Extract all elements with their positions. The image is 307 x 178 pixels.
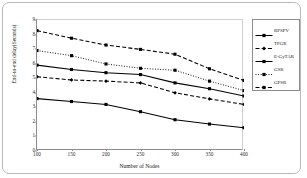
x-axis-tick-label: 300 bbox=[171, 152, 179, 157]
data-point-marker bbox=[37, 29, 39, 32]
y-axis-tick-mark bbox=[35, 63, 37, 64]
data-point-marker bbox=[70, 54, 73, 57]
x-axis-tick-mark bbox=[106, 149, 107, 151]
legend-item-e-gytar[interactable]: E-GyTAR bbox=[255, 50, 297, 63]
legend-label: TPGR bbox=[273, 41, 287, 46]
x-axis-tick-label: 250 bbox=[137, 152, 145, 157]
plot-area: 0123456789100150200250300350400 bbox=[36, 19, 243, 150]
data-point-marker bbox=[208, 123, 211, 126]
data-point-marker bbox=[70, 37, 73, 40]
data-point-marker bbox=[70, 78, 74, 82]
data-point-marker bbox=[208, 67, 211, 70]
data-point-marker bbox=[104, 62, 107, 65]
x-axis-tick-label: 150 bbox=[68, 152, 76, 157]
data-point-marker bbox=[104, 71, 107, 74]
x-axis-tick-label: 400 bbox=[240, 152, 248, 157]
data-point-marker bbox=[37, 97, 39, 100]
legend-swatch-icon bbox=[255, 52, 273, 61]
y-axis-tick-mark bbox=[35, 92, 37, 93]
data-point-marker bbox=[242, 79, 244, 82]
legend-item-rpspv[interactable]: RPSPV bbox=[255, 24, 297, 37]
legend-item-gpsr[interactable]: GPSR bbox=[255, 76, 297, 89]
data-point-marker bbox=[173, 91, 177, 95]
data-point-marker bbox=[173, 118, 176, 121]
data-point-marker bbox=[139, 48, 142, 51]
legend-label: RPSPV bbox=[273, 28, 289, 33]
data-point-marker bbox=[208, 87, 211, 90]
y-axis-tick-mark bbox=[35, 78, 37, 79]
x-axis-tick-mark bbox=[175, 149, 176, 151]
legend-swatch-icon bbox=[255, 78, 273, 87]
data-point-marker bbox=[242, 89, 244, 92]
data-point-marker bbox=[242, 126, 244, 129]
y-axis-tick-mark bbox=[35, 34, 37, 35]
data-point-marker bbox=[208, 97, 212, 101]
x-axis-tick-label: 100 bbox=[33, 152, 41, 157]
x-axis-tick-mark bbox=[72, 149, 73, 151]
data-point-marker bbox=[139, 110, 142, 113]
y-axis-tick-mark bbox=[35, 107, 37, 108]
data-point-marker bbox=[139, 81, 143, 85]
y-axis-label: End-to-end delay(Seconds) bbox=[11, 0, 17, 112]
legend-swatch-icon bbox=[255, 65, 273, 74]
data-point-marker bbox=[37, 49, 39, 52]
data-point-marker bbox=[242, 103, 244, 107]
data-point-marker bbox=[104, 43, 107, 46]
data-point-marker bbox=[37, 64, 39, 67]
y-axis-tick-mark bbox=[35, 121, 37, 122]
y-axis-tick-mark bbox=[35, 20, 37, 21]
x-axis-tick-mark bbox=[210, 149, 211, 151]
data-point-marker bbox=[70, 68, 73, 71]
legend-swatch-icon bbox=[255, 26, 273, 35]
data-point-marker bbox=[139, 67, 142, 70]
y-axis-tick-mark bbox=[35, 49, 37, 50]
x-axis-label: Number of Nodes bbox=[36, 163, 243, 169]
data-point-marker bbox=[173, 69, 176, 72]
data-point-marker bbox=[139, 73, 142, 76]
x-axis-tick-mark bbox=[141, 149, 142, 151]
data-point-marker bbox=[104, 103, 107, 106]
legend-item-tpgr[interactable]: TPGR bbox=[255, 37, 297, 50]
figure-frame: 0123456789100150200250300350400 Number o… bbox=[2, 2, 301, 174]
legend-label: GPSR bbox=[273, 80, 286, 85]
x-axis-tick-label: 200 bbox=[102, 152, 110, 157]
data-point-marker bbox=[242, 94, 244, 97]
data-point-marker bbox=[208, 80, 211, 83]
data-point-marker bbox=[173, 81, 176, 84]
x-axis-tick-label: 350 bbox=[206, 152, 214, 157]
series-line-tpgr bbox=[37, 77, 244, 105]
legend-swatch-icon bbox=[255, 39, 273, 48]
legend-label: E-GyTAR bbox=[273, 54, 294, 59]
data-point-marker bbox=[173, 53, 176, 56]
x-axis-tick-mark bbox=[37, 149, 38, 151]
data-point-marker bbox=[70, 100, 73, 103]
chart-svg bbox=[37, 20, 244, 151]
legend-label: GSR bbox=[273, 67, 284, 72]
y-axis-tick-mark bbox=[35, 136, 37, 137]
data-point-marker bbox=[37, 75, 39, 79]
x-axis-tick-mark bbox=[244, 149, 245, 151]
data-point-marker bbox=[104, 79, 108, 83]
legend-item-gsr[interactable]: GSR bbox=[255, 63, 297, 76]
chart-legend: RPSPVTPGRE-GyTARGSRGPSR bbox=[252, 19, 300, 91]
